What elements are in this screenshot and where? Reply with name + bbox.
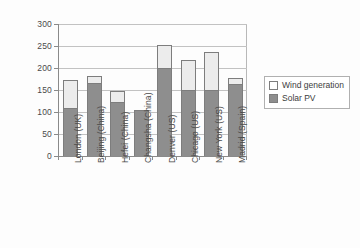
bar-segment-wind-generation[interactable]: [181, 60, 196, 90]
y-tick-mark: [54, 68, 58, 69]
y-tick-mark: [54, 156, 58, 157]
x-tick-mark: [58, 156, 59, 160]
bar-segment-wind-generation[interactable]: [63, 80, 78, 107]
y-tick-mark: [54, 134, 58, 135]
x-axis-label: Beijing (China): [97, 106, 106, 163]
x-tick-mark: [105, 156, 106, 160]
x-tick-mark: [129, 156, 130, 160]
x-axis-label: New York (US): [215, 106, 224, 163]
legend-label: Wind generation: [282, 81, 344, 90]
y-tick-mark: [54, 112, 58, 113]
legend-item[interactable]: Solar PV: [269, 94, 344, 103]
chart-figure: kWh/m2 300250200150100500 London (UK)Bei…: [0, 0, 360, 248]
x-tick-mark: [223, 156, 224, 160]
y-tick-label: 50: [0, 130, 52, 139]
legend-item[interactable]: Wind generation: [269, 81, 344, 90]
y-tick-label: 100: [0, 108, 52, 117]
bar-segment-wind-generation[interactable]: [157, 45, 172, 68]
legend-swatch-wind: [269, 81, 278, 90]
y-tick-label: 250: [0, 42, 52, 51]
x-tick-mark: [152, 156, 153, 160]
x-axis-label: Madrid (Spain): [238, 106, 247, 163]
bar-segment-wind-generation[interactable]: [110, 91, 125, 102]
legend-swatch-solar: [269, 94, 278, 103]
bar-segment-wind-generation[interactable]: [87, 76, 102, 84]
y-tick-label: 200: [0, 64, 52, 73]
y-tick-label: 300: [0, 20, 52, 29]
y-tick-mark: [54, 90, 58, 91]
x-tick-mark: [82, 156, 83, 160]
bar-segment-wind-generation[interactable]: [204, 52, 219, 90]
y-tick-label: 150: [0, 86, 52, 95]
x-tick-mark: [246, 156, 247, 160]
x-axis-label: Changsha (China): [144, 92, 153, 163]
legend-label: Solar PV: [282, 94, 316, 103]
gridline: [59, 24, 247, 25]
y-tick-label: 0: [0, 152, 52, 161]
y-tick-mark: [54, 46, 58, 47]
y-axis-tick-labels: 300250200150100500: [0, 0, 52, 248]
x-tick-mark: [176, 156, 177, 160]
chart-legend: Wind generationSolar PV: [264, 76, 350, 109]
gridline: [59, 46, 247, 47]
x-tick-mark: [199, 156, 200, 160]
y-tick-mark: [54, 24, 58, 25]
